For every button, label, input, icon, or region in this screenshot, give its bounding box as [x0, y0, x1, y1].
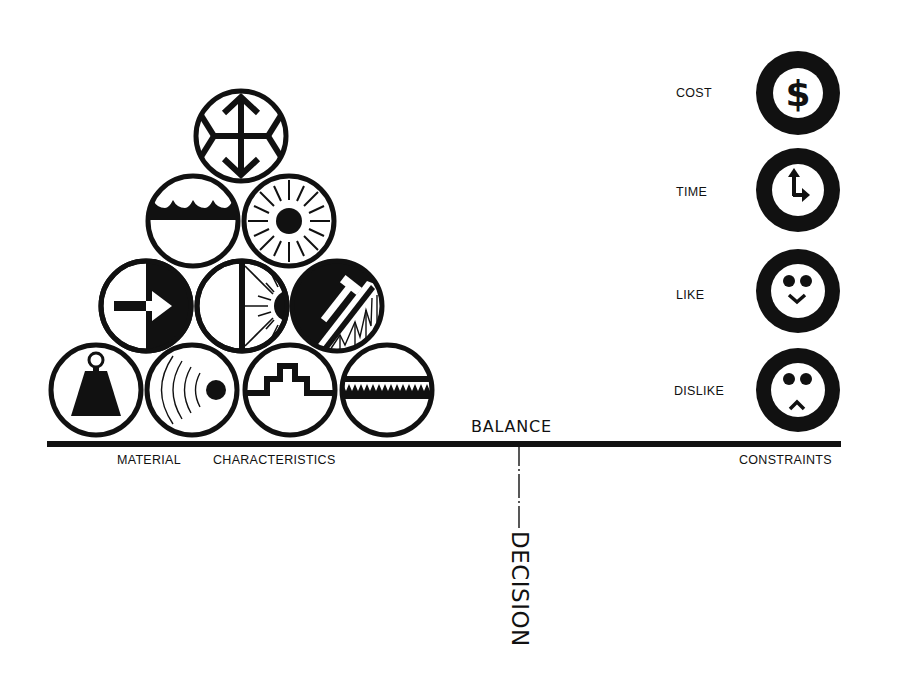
constraint-label-like: LIKE [676, 288, 704, 302]
sun-heat-icon [244, 176, 334, 266]
happy-face-icon [756, 249, 840, 333]
decision-balance-diagram: $ [0, 0, 901, 697]
constraint-label-cost: COST [676, 86, 712, 100]
constraint-label-time: TIME [676, 185, 707, 199]
decision-label: DECISION [507, 531, 533, 647]
sad-face-icon [756, 348, 840, 432]
water-waves-icon [140, 176, 250, 266]
stepped-profile-icon [240, 345, 340, 435]
sound-waves-icon [147, 345, 237, 435]
constraint-label-dislike: DISLIKE [674, 384, 724, 398]
constraints-label: CONSTRAINTS [739, 453, 832, 467]
weight-icon [51, 345, 141, 435]
clock-icon [756, 148, 840, 232]
balance-beam [47, 441, 841, 447]
dollar-icon: $ [756, 51, 840, 135]
serrated-texture-icon [340, 345, 436, 435]
balance-label: BALANCE [471, 417, 552, 436]
expansion-arrows-icon [196, 91, 286, 181]
svg-text:$: $ [785, 73, 810, 114]
characteristics-label: CHARACTERISTICS [213, 453, 336, 467]
material-label: MATERIAL [117, 453, 181, 467]
